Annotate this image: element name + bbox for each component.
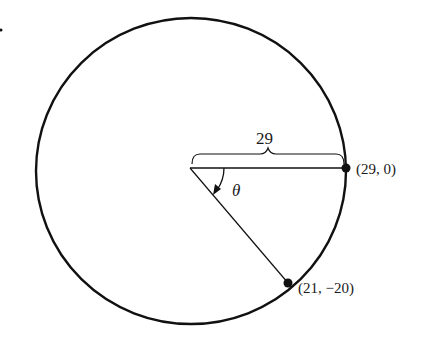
stray-mark	[0, 29, 3, 32]
point-label-1: (29, 0)	[356, 161, 396, 178]
point-label-2: (21, −20)	[298, 280, 354, 297]
angle-label: θ	[232, 181, 240, 200]
radius-label: 29	[256, 129, 273, 148]
diagram-canvas: 29 θ (29, 0) (21, −20)	[0, 0, 441, 342]
circle	[36, 18, 346, 324]
circle-diagram: 29 θ (29, 0) (21, −20)	[0, 0, 441, 342]
brace	[192, 148, 344, 164]
point-21-neg20	[284, 279, 293, 288]
point-29-0	[342, 164, 351, 173]
